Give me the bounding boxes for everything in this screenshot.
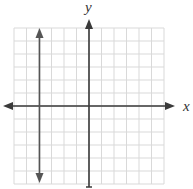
x-axis-label: x	[183, 99, 190, 114]
x-axis-right-arrow-icon	[165, 102, 175, 110]
coordinate-plane	[0, 0, 193, 189]
y-axis-label: y	[85, 0, 92, 15]
y-axis-up-arrow-icon	[85, 19, 93, 29]
x-axis-left-arrow-icon	[3, 102, 13, 110]
y-axis	[85, 19, 93, 187]
line-down-arrow-icon	[36, 173, 44, 183]
line-up-arrow-icon	[36, 28, 44, 38]
